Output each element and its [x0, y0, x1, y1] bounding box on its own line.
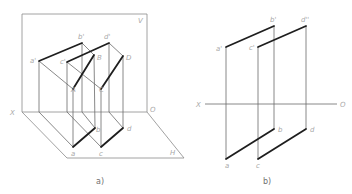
label-bprime: b'	[78, 33, 84, 41]
label-aprime-b: a'	[216, 45, 222, 53]
label-D: D	[126, 54, 132, 62]
figure-b: X O a' b' c' d'' a b c d b)	[195, 16, 346, 186]
caption-a: a)	[96, 177, 104, 186]
caption-b: b)	[263, 177, 271, 186]
label-x-axis-b: X	[195, 101, 201, 109]
label-c: c	[99, 150, 103, 158]
label-dprime-b: d''	[301, 16, 309, 24]
edge-D-C	[101, 56, 123, 89]
label-B: B	[97, 54, 102, 62]
label-v-plane: V	[138, 17, 144, 25]
edge-cprime-C	[67, 62, 101, 89]
edge-dprime-D	[109, 43, 123, 56]
projection-diagram: V H X O a' b' c' d' A B C D a b c d a) X…	[0, 0, 352, 194]
label-aprime: a'	[30, 57, 36, 65]
h-plane	[22, 112, 184, 158]
label-d-b: d	[310, 126, 315, 134]
v-plane	[22, 14, 147, 112]
label-o-origin-b: O	[340, 101, 346, 109]
label-a-b: a	[225, 162, 229, 170]
label-x-axis: X	[9, 109, 15, 117]
label-o-origin: O	[150, 106, 156, 114]
label-dprime: d'	[104, 33, 110, 41]
label-d: d	[127, 125, 132, 133]
label-C: C	[99, 86, 104, 94]
label-bprime-b: b'	[270, 16, 276, 24]
edge-c-d	[101, 128, 123, 147]
label-b-b: b	[278, 126, 283, 134]
receding-line	[39, 112, 73, 147]
edge-B-A	[73, 55, 94, 89]
figure-a: V H X O a' b' c' d' A B C D a b c d a)	[9, 14, 184, 186]
receding-line	[109, 112, 123, 128]
label-b: b	[96, 126, 101, 134]
label-c-b: c	[256, 162, 260, 170]
label-h-plane: H	[170, 149, 176, 157]
receding-line	[82, 112, 95, 128]
projector	[94, 55, 95, 128]
label-A: A	[70, 86, 76, 94]
label-cprime: c'	[60, 58, 66, 66]
label-cprime-b: c'	[249, 44, 255, 52]
edge-aprime-A	[39, 61, 73, 89]
label-a: a	[71, 150, 75, 158]
